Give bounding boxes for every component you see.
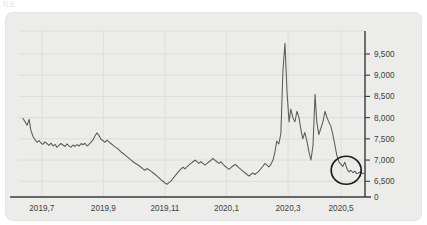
svg-text:7,500: 7,500 — [374, 135, 395, 144]
line-chart: 6,5007,0007,5008,0008,5009,0009,5000 201… — [6, 13, 421, 220]
y-axis-ticks — [365, 54, 370, 181]
svg-text:2020,5: 2020,5 — [329, 204, 354, 213]
horizontal-gridlines — [18, 31, 365, 181]
svg-text:2019,7: 2019,7 — [29, 204, 54, 213]
svg-text:8,500: 8,500 — [374, 92, 395, 101]
svg-text:2020,1: 2020,1 — [214, 204, 239, 213]
x-axis-tick-labels: 2019,72019,92019,112020,12020,32020,5 — [29, 204, 354, 213]
chart-plot-area: 6,5007,0007,5008,0008,5009,0009,5000 201… — [6, 13, 421, 220]
svg-text:7,000: 7,000 — [374, 156, 395, 165]
svg-text:2019,11: 2019,11 — [150, 204, 179, 213]
svg-text:9,000: 9,000 — [374, 71, 395, 80]
price-series-line — [23, 43, 365, 184]
highlight-annotation-circle — [331, 156, 361, 184]
svg-text:9,500: 9,500 — [374, 50, 395, 59]
svg-text:0: 0 — [374, 193, 379, 202]
chart-card: 6,5007,0007,5008,0008,5009,0009,5000 201… — [6, 13, 421, 220]
svg-text:8,000: 8,000 — [374, 114, 395, 123]
svg-text:6,500: 6,500 — [374, 177, 395, 186]
svg-text:2019,9: 2019,9 — [91, 204, 116, 213]
svg-text:2020,3: 2020,3 — [276, 204, 301, 213]
y-axis-tick-labels: 6,5007,0007,5008,0008,5009,0009,5000 — [374, 50, 395, 202]
clipped-header-text: 차트 — [2, 0, 15, 9]
